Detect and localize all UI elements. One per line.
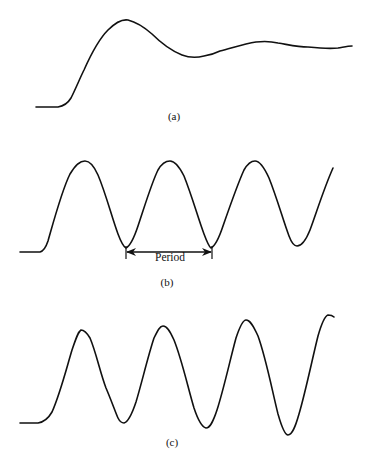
panel-label-c: (c) <box>166 436 178 448</box>
curve-c-growing-oscillation <box>20 315 334 435</box>
curve-a-damped-response <box>36 20 352 107</box>
figure-canvas <box>0 0 367 462</box>
panel-label-b: (b) <box>161 276 174 288</box>
curve-b-sustained-oscillation <box>20 161 333 252</box>
panel-label-a: (a) <box>168 110 180 122</box>
period-label: Period <box>155 251 185 263</box>
